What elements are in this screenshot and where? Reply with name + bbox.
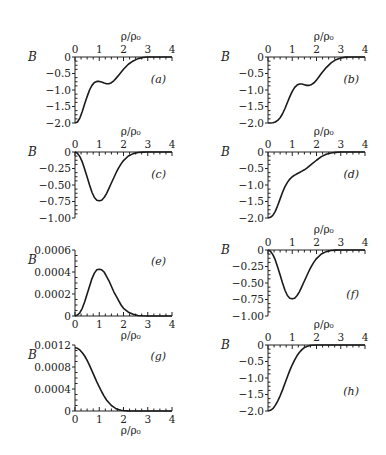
panel-label: (h) — [343, 385, 359, 398]
x-tick-label: 1 — [96, 413, 103, 425]
y-tick-label: −1.0 — [239, 372, 265, 384]
y-tick-label: −0.25 — [232, 260, 264, 272]
data-curve — [75, 269, 172, 316]
x-tick-label: 3 — [337, 138, 344, 150]
panel-label: (g) — [150, 350, 166, 363]
y-tick-label: −2.0 — [46, 117, 72, 129]
y-tick-label: −0.75 — [232, 293, 264, 305]
x-tick-label: 2 — [313, 331, 320, 343]
x-tick-label: 0 — [72, 413, 79, 425]
data-curve — [268, 152, 365, 218]
x-tick-label: 4 — [169, 43, 176, 55]
x-tick-label: 3 — [144, 318, 151, 330]
panel-label: (f) — [346, 288, 359, 301]
y-tick-label: 0 — [257, 244, 264, 256]
y-tick-label: 0 — [64, 51, 71, 63]
x-axis-label: ρ/ρ₀ — [314, 125, 334, 137]
x-tick-label: 1 — [96, 318, 103, 330]
y-axis-label: B — [27, 348, 37, 362]
data-curve — [268, 345, 365, 411]
y-tick-label: 0.0012 — [34, 339, 71, 351]
y-tick-label: −1.5 — [239, 388, 265, 400]
x-tick-label: 1 — [289, 43, 296, 55]
x-tick-label: 3 — [337, 331, 344, 343]
y-tick-label: −0.5 — [239, 355, 265, 367]
x-tick-label: 4 — [169, 138, 176, 150]
x-tick-label: 0 — [72, 43, 79, 55]
data-curve — [268, 57, 365, 123]
panel-e: 01234ρ/ρ₀0.00060.00040.00020B(e) — [27, 244, 176, 342]
x-tick-label: 4 — [362, 236, 369, 248]
figure: 01234ρ/ρ₀0−0.5−1.0−1.5−2.0B(a)01234ρ/ρ₀0… — [0, 0, 386, 455]
y-tick-label: 0 — [64, 405, 71, 417]
x-tick-label: 2 — [313, 236, 320, 248]
y-axis-label: B — [220, 338, 230, 352]
y-tick-label: −0.5 — [239, 67, 265, 79]
y-tick-label: −1.0 — [46, 84, 72, 96]
y-tick-label: −0.25 — [39, 162, 71, 174]
y-tick-label: −1.5 — [239, 100, 265, 112]
y-tick-label: −0.50 — [39, 179, 71, 191]
panel-h: 01234ρ/ρ₀0−0.5−1.0−1.5−2.0B(h) — [220, 318, 369, 417]
y-axis-label: B — [220, 50, 230, 64]
y-tick-label: −2.0 — [239, 212, 265, 224]
x-tick-label: 2 — [120, 43, 127, 55]
panel-label: (b) — [343, 73, 359, 86]
panel-b: 01234ρ/ρ₀0−0.5−1.0−1.5−2.0B(b) — [220, 30, 369, 129]
x-axis-label: ρ/ρ₀ — [314, 318, 334, 330]
y-tick-label: 0.0008 — [34, 361, 71, 373]
x-tick-label: 0 — [72, 138, 79, 150]
y-tick-label: 0 — [64, 310, 71, 322]
y-tick-label: 0 — [257, 339, 264, 351]
panel-f: 01234ρ/ρ₀0−0.25−0.50−0.75−1.00B(f) — [220, 223, 369, 322]
y-axis-label: B — [27, 145, 37, 159]
x-tick-label: 4 — [362, 331, 369, 343]
y-axis-label: B — [27, 253, 37, 267]
y-tick-label: 0.0006 — [34, 244, 71, 256]
x-axis-label: ρ/ρ₀ — [121, 125, 141, 137]
y-tick-label: −2.0 — [239, 117, 265, 129]
x-tick-label: 0 — [265, 43, 272, 55]
y-axis-label: B — [27, 50, 37, 64]
x-tick-label: 1 — [289, 331, 296, 343]
x-axis-label: ρ/ρ₀ — [121, 329, 141, 341]
x-axis-label: ρ/ρ₀ — [314, 223, 334, 235]
y-tick-label: −1.5 — [46, 100, 72, 112]
panel-label: (d) — [343, 168, 359, 181]
x-tick-label: 2 — [313, 43, 320, 55]
x-tick-label: 0 — [265, 331, 272, 343]
panel-c: 01234ρ/ρ₀0−0.25−0.50−0.75−1.00B(c) — [27, 125, 176, 224]
x-tick-label: 3 — [337, 236, 344, 248]
panel-g: 01234ρ/ρ₀0.00120.00080.00040B(g) — [27, 339, 176, 437]
x-tick-label: 2 — [313, 138, 320, 150]
y-tick-label: 0 — [64, 146, 71, 158]
data-curve — [75, 57, 172, 123]
y-tick-label: −0.75 — [39, 195, 71, 207]
x-tick-label: 4 — [362, 43, 369, 55]
x-tick-label: 2 — [120, 138, 127, 150]
y-tick-label: −1.0 — [239, 84, 265, 96]
y-tick-label: −1.00 — [39, 212, 71, 224]
x-tick-label: 4 — [169, 413, 176, 425]
x-tick-label: 0 — [72, 318, 79, 330]
y-tick-label: −1.00 — [232, 310, 264, 322]
panel-label: (e) — [151, 255, 166, 268]
x-tick-label: 1 — [289, 138, 296, 150]
x-axis-label: ρ/ρ₀ — [314, 30, 334, 42]
y-tick-label: −0.50 — [232, 277, 264, 289]
y-tick-label: 0 — [257, 51, 264, 63]
y-tick-label: −2.0 — [239, 405, 265, 417]
y-tick-label: 0.0002 — [34, 288, 71, 300]
x-tick-label: 1 — [289, 236, 296, 248]
x-tick-label: 3 — [337, 43, 344, 55]
y-tick-label: 0.0004 — [34, 383, 71, 395]
x-tick-label: 4 — [169, 318, 176, 330]
panel-label: (c) — [151, 168, 166, 181]
x-tick-label: 3 — [144, 43, 151, 55]
y-tick-label: −0.5 — [239, 162, 265, 174]
x-tick-label: 3 — [144, 413, 151, 425]
x-axis-label: ρ/ρ₀ — [121, 424, 141, 436]
y-axis-label: B — [220, 243, 230, 257]
panel-d: 01234ρ/ρ₀0−0.5−1.0−1.5−2.0B(d) — [220, 125, 369, 224]
x-tick-label: 3 — [144, 138, 151, 150]
